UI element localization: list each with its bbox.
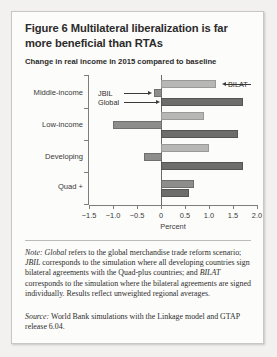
category-label-low-income: Low-income	[42, 120, 83, 129]
note-label: Note:	[25, 248, 43, 257]
bar-developing-global	[161, 162, 243, 170]
x-axis-tick	[185, 205, 186, 209]
global-leader-arrow	[156, 100, 160, 104]
bar-quad-plus-jbil	[161, 180, 194, 188]
jbil-leader-line	[124, 93, 148, 94]
bar-low-income-jbil	[113, 121, 162, 129]
figure-title: Figure 6 Multilateral liberalization is …	[25, 21, 253, 50]
category-label-developing: Developing	[45, 152, 83, 161]
bilat-leader-arrow	[222, 82, 226, 86]
note-term-bilat: BILAT	[200, 268, 221, 277]
x-axis-label: −1.0	[106, 211, 121, 220]
chart-plot-area: Middle-income Low-income Developing Quad…	[12, 74, 265, 222]
bar-low-income-bilat	[161, 112, 204, 120]
x-axis-label: 0	[159, 211, 163, 220]
bar-middle-income-global	[161, 98, 243, 106]
x-axis-tick	[257, 205, 258, 209]
bar-low-income-global	[161, 130, 238, 138]
x-axis-title: Percent	[89, 222, 257, 231]
annotation-bilat: BILAT	[228, 80, 248, 89]
x-axis-label: 2.0	[252, 211, 262, 220]
y-axis-tick	[84, 172, 88, 173]
x-axis-label: −0.5	[130, 211, 145, 220]
jbil-leader-arrow	[148, 91, 152, 95]
annotation-jbil: JBIL	[98, 89, 113, 98]
x-axis-tick	[137, 205, 138, 209]
x-axis-label: 0.5	[180, 211, 190, 220]
bar-middle-income-jbil	[154, 89, 162, 97]
note-term-jbil: JBIL	[25, 258, 40, 267]
y-axis-tick	[84, 75, 88, 76]
global-leader-line	[124, 102, 156, 103]
bar-developing-bilat	[161, 144, 209, 152]
chart-subtitle: Change in real income in 2015 compared t…	[25, 57, 255, 67]
category-label-quad-plus: Quad +	[58, 182, 83, 191]
figure-note: Note: Global refers to the global mercha…	[25, 248, 253, 299]
x-axis-tick	[161, 205, 162, 209]
x-axis-label: 1.5	[228, 211, 238, 220]
annotation-global: Global	[98, 98, 119, 107]
category-axis-labels: Middle-income Low-income Developing Quad…	[12, 74, 87, 205]
footnote-divider	[25, 240, 251, 241]
note-text-3: corresponds to the simulation where the …	[25, 279, 251, 298]
bars-canvas	[89, 75, 257, 205]
x-axis-tick	[89, 205, 90, 209]
x-axis-line	[89, 205, 257, 206]
y-axis-tick	[84, 140, 88, 141]
category-label-middle-income: Middle-income	[34, 88, 83, 97]
y-axis-tick	[84, 204, 88, 205]
x-axis-tick	[233, 205, 234, 209]
figure-card: Figure 6 Multilateral liberalization is …	[11, 11, 264, 344]
bar-developing-jbil	[144, 153, 162, 161]
x-axis-tick	[209, 205, 210, 209]
x-axis-label: 1.0	[204, 211, 214, 220]
bar-quad-plus-global	[161, 189, 189, 197]
bar-middle-income-bilat	[161, 80, 216, 88]
note-text-1: refers to the global merchandise trade r…	[66, 248, 241, 257]
y-axis-tick	[84, 108, 88, 109]
source-label: Source:	[25, 312, 49, 321]
source-text: World Bank simulations with the Linkage …	[25, 312, 240, 331]
note-term-global: Global	[45, 248, 67, 257]
x-axis-tick	[113, 205, 114, 209]
figure-source: Source: World Bank simulations with the …	[25, 312, 253, 332]
x-axis-label: −1.5	[82, 211, 97, 220]
